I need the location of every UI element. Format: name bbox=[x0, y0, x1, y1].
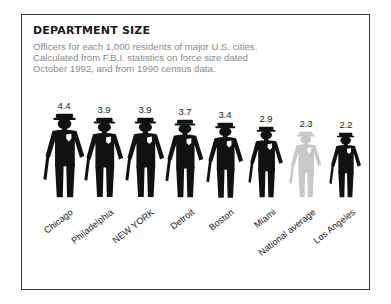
category-label: Boston bbox=[207, 207, 236, 232]
category-label: NEW YORK bbox=[111, 207, 156, 246]
police-officer-icon bbox=[206, 122, 245, 199]
police-officer-icon bbox=[329, 132, 362, 199]
police-officer-icon bbox=[84, 117, 125, 199]
police-officer-icon bbox=[289, 131, 323, 199]
value-label: 3.7 bbox=[170, 106, 200, 117]
category-label: Chicago bbox=[42, 207, 75, 236]
category-label: Philadelphia bbox=[69, 207, 115, 246]
police-officer-icon bbox=[43, 113, 86, 199]
value-label: 2.3 bbox=[291, 118, 321, 129]
value-label: 2.9 bbox=[251, 113, 281, 124]
value-label: 2.2 bbox=[331, 119, 361, 130]
value-label: 3.9 bbox=[130, 104, 160, 115]
police-officer-icon bbox=[125, 117, 166, 199]
value-label: 3.4 bbox=[210, 109, 240, 120]
pictograph-area: 4.4Chicago3.9Philadelphia3.9NEW YORK3.7D… bbox=[0, 0, 391, 304]
value-label: 3.9 bbox=[89, 104, 119, 115]
category-label: Los Angeles bbox=[311, 207, 357, 246]
police-officer-icon bbox=[165, 119, 205, 199]
category-label: Detroit bbox=[169, 207, 196, 232]
category-label: Miami bbox=[252, 207, 277, 230]
police-officer-icon bbox=[248, 126, 284, 199]
value-label: 4.4 bbox=[49, 100, 79, 111]
